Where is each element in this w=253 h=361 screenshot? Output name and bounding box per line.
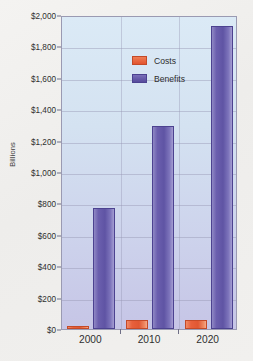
y-tick-label: $0	[0, 326, 56, 335]
bar-benefits-2020	[211, 26, 233, 329]
y-tick-label: $1,800	[0, 43, 56, 52]
x-tick-mark	[120, 329, 121, 334]
legend-swatch-benefits-icon	[132, 74, 147, 83]
y-axis-tick-labels: $0$200$400$600$800$1,000$1,200$1,400$1,6…	[0, 0, 60, 361]
y-tick-label: $1,400	[0, 106, 56, 115]
legend-label-costs: Costs	[154, 56, 176, 66]
y-tick-label: $400	[0, 263, 56, 272]
y-tick-label: $1,600	[0, 74, 56, 83]
bar-costs-2000	[67, 326, 89, 329]
legend-item-benefits: Benefits	[132, 71, 185, 86]
legend-item-costs: Costs	[132, 53, 185, 68]
plot-area: Costs Benefits	[61, 16, 237, 330]
legend-label-benefits: Benefits	[154, 74, 185, 84]
x-axis-tick-labels: 200020102020	[61, 334, 237, 354]
vertical-gridline	[121, 17, 122, 329]
bar-benefits-2000	[93, 208, 115, 329]
y-tick-label: $200	[0, 294, 56, 303]
x-tick-label-2020: 2020	[178, 334, 238, 345]
legend-swatch-costs-icon	[132, 56, 147, 65]
x-tick-label-2000: 2000	[60, 334, 120, 345]
bar-costs-2010	[126, 320, 148, 329]
y-tick-label: $1,000	[0, 169, 56, 178]
y-tick-label: $800	[0, 200, 56, 209]
chart-figure: Billions $0$200$400$600$800$1,000$1,200$…	[0, 0, 253, 361]
legend: Costs Benefits	[132, 53, 185, 89]
y-tick-label: $600	[0, 231, 56, 240]
bar-benefits-2010	[152, 126, 174, 329]
bar-costs-2020	[185, 320, 207, 329]
x-tick-mark	[178, 329, 179, 334]
x-tick-label-2010: 2010	[119, 334, 179, 345]
y-tick-label: $2,000	[0, 12, 56, 21]
y-tick-label: $1,200	[0, 137, 56, 146]
